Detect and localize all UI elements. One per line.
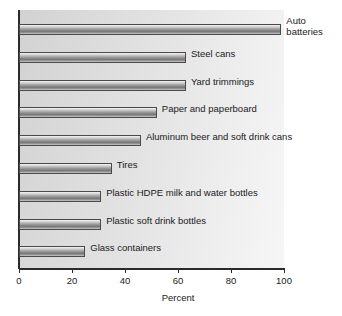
x-tick-label: 20: [57, 275, 87, 286]
bar-label-line-2: batteries: [286, 27, 322, 38]
x-tick-label: 80: [216, 275, 246, 286]
x-tick-label: 0: [4, 275, 34, 286]
bar[interactable]: [19, 246, 85, 257]
bar-row: Plastic soft drink bottles: [0, 213, 342, 238]
bar-chart: AutobatteriesSteel cansYard trimmingsPap…: [0, 0, 342, 316]
bar[interactable]: [19, 163, 112, 174]
bar-row: Steel cans: [0, 46, 342, 71]
bar[interactable]: [19, 80, 186, 91]
x-tick-mark: [284, 268, 285, 273]
bar-label: Tires: [117, 160, 138, 171]
x-tick-mark: [72, 268, 73, 273]
bar-label: Autobatteries: [286, 16, 322, 37]
x-tick-label: 100: [269, 275, 299, 286]
x-axis-line: [19, 268, 285, 270]
bar-label: Aluminum beer and soft drink cans: [146, 132, 292, 143]
x-tick-label: 60: [163, 275, 193, 286]
x-tick-mark: [231, 268, 232, 273]
bar-label: Paper and paperboard: [162, 104, 257, 115]
bar-row: Yard trimmings: [0, 74, 342, 99]
bar[interactable]: [19, 52, 186, 63]
bar-row: Aluminum beer and soft drink cans: [0, 129, 342, 154]
bar-label: Steel cans: [191, 49, 235, 60]
x-axis-title: Percent: [0, 292, 342, 303]
bar-row: Autobatteries: [0, 18, 342, 43]
bar[interactable]: [19, 24, 281, 35]
x-tick-mark: [19, 268, 20, 273]
x-tick-label: 40: [110, 275, 140, 286]
x-tick-mark: [178, 268, 179, 273]
bar-label-line-1: Auto: [286, 16, 322, 27]
bar[interactable]: [19, 135, 141, 146]
bar-row: Plastic HDPE milk and water bottles: [0, 185, 342, 210]
bar-label: Plastic HDPE milk and water bottles: [106, 188, 258, 199]
bar-label: Yard trimmings: [191, 77, 254, 88]
bar[interactable]: [19, 107, 157, 118]
bar-row: Paper and paperboard: [0, 101, 342, 126]
bar-label: Plastic soft drink bottles: [106, 216, 206, 227]
bar-label: Glass containers: [90, 243, 161, 254]
x-tick-mark: [125, 268, 126, 273]
bar[interactable]: [19, 191, 101, 202]
bar[interactable]: [19, 219, 101, 230]
bar-row: Glass containers: [0, 240, 342, 265]
bar-row: Tires: [0, 157, 342, 182]
